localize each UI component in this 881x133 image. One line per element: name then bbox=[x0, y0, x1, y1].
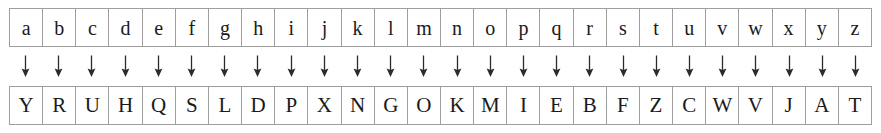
ciphertext-cell: V bbox=[739, 87, 772, 124]
plaintext-cell: t bbox=[640, 9, 673, 46]
plaintext-cell: p bbox=[507, 9, 540, 46]
arrow-down-icon bbox=[142, 47, 175, 86]
ciphertext-cell: F bbox=[607, 87, 640, 124]
ciphertext-cell: Q bbox=[143, 87, 176, 124]
ciphertext-cell: T bbox=[839, 87, 872, 124]
plaintext-cell: j bbox=[308, 9, 341, 46]
arrow-down-icon bbox=[640, 47, 673, 86]
plaintext-cell: v bbox=[706, 9, 739, 46]
ciphertext-cell: X bbox=[308, 87, 341, 124]
plaintext-cell: b bbox=[43, 9, 76, 46]
plaintext-cell: a bbox=[10, 9, 43, 46]
arrow-down-icon bbox=[440, 47, 473, 86]
plaintext-alphabet-row: a b c d e f g h i j k l m n o p q r s t … bbox=[9, 8, 872, 47]
arrow-down-icon bbox=[739, 47, 772, 86]
ciphertext-cell: I bbox=[507, 87, 540, 124]
arrow-down-icon bbox=[673, 47, 706, 86]
arrow-down-icon bbox=[540, 47, 573, 86]
ciphertext-cell: M bbox=[474, 87, 507, 124]
ciphertext-cell: D bbox=[242, 87, 275, 124]
ciphertext-cell: H bbox=[109, 87, 142, 124]
plaintext-cell: z bbox=[839, 9, 872, 46]
ciphertext-cell: B bbox=[574, 87, 607, 124]
arrow-down-icon bbox=[772, 47, 805, 86]
plaintext-cell: h bbox=[242, 9, 275, 46]
arrow-down-icon bbox=[839, 47, 872, 86]
arrow-down-icon bbox=[507, 47, 540, 86]
arrow-down-icon bbox=[407, 47, 440, 86]
plaintext-cell: g bbox=[209, 9, 242, 46]
ciphertext-cell: R bbox=[43, 87, 76, 124]
plaintext-cell: f bbox=[176, 9, 209, 46]
arrow-down-icon bbox=[75, 47, 108, 86]
plaintext-cell: m bbox=[408, 9, 441, 46]
ciphertext-cell: K bbox=[441, 87, 474, 124]
ciphertext-cell: N bbox=[342, 87, 375, 124]
arrow-down-icon bbox=[208, 47, 241, 86]
arrow-down-icon bbox=[573, 47, 606, 86]
plaintext-cell: r bbox=[574, 9, 607, 46]
arrow-down-icon bbox=[175, 47, 208, 86]
arrow-down-icon bbox=[606, 47, 639, 86]
arrow-down-icon bbox=[9, 47, 42, 86]
ciphertext-cell: L bbox=[209, 87, 242, 124]
arrow-down-icon bbox=[341, 47, 374, 86]
ciphertext-cell: A bbox=[806, 87, 839, 124]
arrow-down-icon bbox=[109, 47, 142, 86]
arrow-down-icon bbox=[308, 47, 341, 86]
ciphertext-cell: C bbox=[673, 87, 706, 124]
ciphertext-cell: U bbox=[76, 87, 109, 124]
mapping-arrow-row bbox=[9, 47, 872, 86]
plaintext-cell: x bbox=[773, 9, 806, 46]
arrow-down-icon bbox=[42, 47, 75, 86]
plaintext-cell: i bbox=[275, 9, 308, 46]
ciphertext-cell: Z bbox=[640, 87, 673, 124]
arrow-down-icon bbox=[806, 47, 839, 86]
plaintext-cell: u bbox=[673, 9, 706, 46]
ciphertext-cell: G bbox=[375, 87, 408, 124]
ciphertext-cell: S bbox=[176, 87, 209, 124]
plaintext-cell: o bbox=[474, 9, 507, 46]
plaintext-cell: k bbox=[342, 9, 375, 46]
arrow-down-icon bbox=[374, 47, 407, 86]
plaintext-cell: d bbox=[109, 9, 142, 46]
arrow-down-icon bbox=[706, 47, 739, 86]
ciphertext-cell: E bbox=[540, 87, 573, 124]
ciphertext-cell: P bbox=[275, 87, 308, 124]
substitution-cipher-key-table: a b c d e f g h i j k l m n o p q r s t … bbox=[9, 8, 872, 125]
plaintext-cell: q bbox=[540, 9, 573, 46]
ciphertext-cell: Y bbox=[10, 87, 43, 124]
plaintext-cell: w bbox=[739, 9, 772, 46]
arrow-down-icon bbox=[241, 47, 274, 86]
plaintext-cell: n bbox=[441, 9, 474, 46]
ciphertext-alphabet-row: Y R U H Q S L D P X N G O K M I E B F Z … bbox=[9, 86, 872, 125]
plaintext-cell: c bbox=[76, 9, 109, 46]
ciphertext-cell: J bbox=[773, 87, 806, 124]
plaintext-cell: s bbox=[607, 9, 640, 46]
plaintext-cell: e bbox=[143, 9, 176, 46]
ciphertext-cell: W bbox=[706, 87, 739, 124]
arrow-down-icon bbox=[275, 47, 308, 86]
arrow-down-icon bbox=[474, 47, 507, 86]
plaintext-cell: l bbox=[375, 9, 408, 46]
ciphertext-cell: O bbox=[408, 87, 441, 124]
plaintext-cell: y bbox=[806, 9, 839, 46]
